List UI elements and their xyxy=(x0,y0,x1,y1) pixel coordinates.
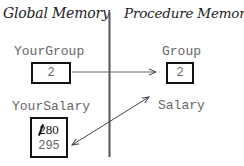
salary-label: Salary xyxy=(158,98,205,113)
your-salary-box: 280 295 xyxy=(30,117,68,158)
your-group-label: YourGroup xyxy=(14,44,84,59)
your-group-value: 2 xyxy=(33,64,69,82)
your-salary-old-value: 280 xyxy=(32,122,66,138)
group-value: 2 xyxy=(168,64,192,82)
your-salary-new-value: 295 xyxy=(32,138,66,155)
group-label: Group xyxy=(162,44,201,59)
group-box: 2 xyxy=(166,62,194,84)
your-group-box: 2 xyxy=(31,62,71,84)
your-salary-label: YourSalary xyxy=(12,99,90,114)
